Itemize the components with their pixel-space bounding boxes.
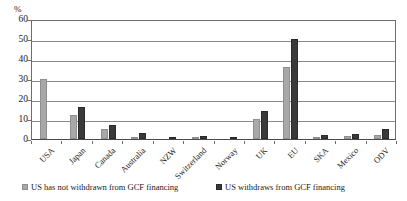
bar-group [32,21,395,139]
x-axis-tick-mark [214,141,215,144]
x-axis-tick-mark [305,141,306,144]
chart-legend: US has not withdrawn from GCF financing … [0,182,407,198]
x-axis-tick-mark [122,141,123,144]
legend-swatch-icon [216,184,222,190]
bar-chart-figure: % 0102030405060 USAJapanCanadaAustraliaN… [0,0,407,201]
x-axis-tick-mark [335,141,336,144]
legend-item-us-withdraws: US withdraws from GCF financing [216,182,345,192]
bar [382,129,389,139]
x-axis-tick-mark [366,141,367,144]
legend-swatch-icon [22,184,28,190]
legend-item-label: US withdraws from GCF financing [225,182,345,192]
x-axis-tick-labels: USAJapanCanadaAustraliaNZWSwitzerlandNor… [31,141,396,181]
x-axis-tick-mark [31,141,32,144]
y-axis-tick-label: 60 [2,15,28,25]
x-axis-tick-mark [92,141,93,144]
x-axis-tick-mark [153,141,154,144]
x-axis-tick-mark [274,141,275,144]
legend-item-us-has-not-withdrawn: US has not withdrawn from GCF financing [22,182,178,192]
y-axis-tick-label: 10 [2,115,28,125]
y-axis-tick-label: 50 [2,35,28,45]
y-axis-tick-label: 40 [2,55,28,65]
plot-area [31,20,396,140]
legend-item-label: US has not withdrawn from GCF financing [31,182,178,192]
x-axis-tick-mark [396,141,397,144]
y-axis-tick-label: 30 [2,75,28,85]
y-axis-tick-labels: 0102030405060 [0,0,28,201]
x-axis-tick-label: EU [294,138,308,152]
x-axis-tick-mark [61,141,62,144]
y-axis-tick-label: 20 [2,95,28,105]
y-axis-tick-label: 0 [2,135,28,145]
x-axis-tick-mark [183,141,184,144]
x-axis-tick-mark [244,141,245,144]
